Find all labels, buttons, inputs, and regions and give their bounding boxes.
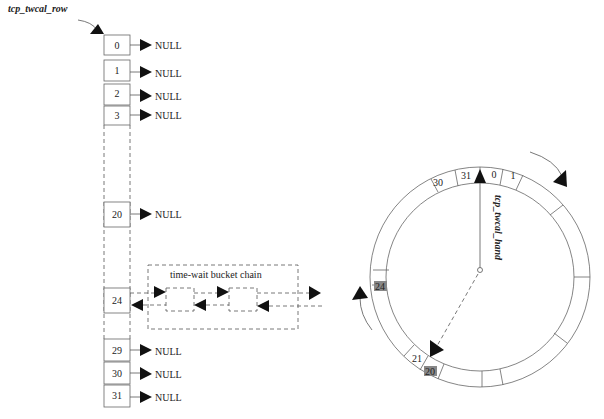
arrow-right-icon: [140, 66, 152, 78]
ring-slot-label: 1: [511, 170, 516, 181]
hand-pointer-label: tcp_twcal_hand: [493, 195, 504, 261]
rotation-arrow-icon: [352, 286, 368, 300]
row-slot: 29 NULL: [104, 339, 182, 361]
hand-pointer-arrow-icon: [474, 169, 486, 183]
hand-arrow-icon: [430, 340, 444, 357]
svg-text:2: 2: [115, 88, 120, 99]
hand-pivot: [478, 268, 483, 273]
row-slot: 0 NULL: [104, 35, 182, 55]
svg-text:29: 29: [112, 345, 122, 356]
svg-text:NULL: NULL: [155, 209, 182, 220]
row-slot: 3 NULL: [104, 106, 182, 125]
svg-text:NULL: NULL: [155, 68, 182, 79]
ring-slot-label: 30: [433, 177, 443, 188]
ring-slot-label: 0: [492, 169, 497, 180]
arrow-right-icon: [140, 344, 152, 356]
row-slot: 2 NULL: [104, 84, 182, 105]
null-label: NULL: [155, 40, 182, 51]
svg-text:24: 24: [112, 295, 122, 306]
arrow-right-icon: [154, 286, 166, 298]
ring-slot-label: 21: [412, 353, 422, 364]
arrow-left-icon: [131, 299, 143, 311]
timewait-calendar-diagram: tcp_twcal_row 0 NULL 1 NULL 2 NULL 3 NUL…: [0, 0, 604, 419]
svg-text:30: 30: [112, 368, 122, 379]
svg-text:NULL: NULL: [155, 91, 182, 102]
ring-slot-label: 31: [461, 170, 471, 181]
chain-title: time-wait bucket chain: [170, 269, 262, 280]
arrow-left-icon: [257, 300, 269, 312]
bucket-node: [229, 288, 257, 311]
arrow-right-icon: [217, 286, 229, 298]
arrow-right-icon: [140, 39, 152, 51]
ring-slot-label: 20: [425, 366, 435, 377]
svg-text:NULL: NULL: [155, 369, 182, 380]
arrow-right-icon: [140, 208, 152, 220]
svg-text:3: 3: [115, 110, 120, 121]
slot-index: 0: [115, 40, 120, 51]
row-slot: 1 NULL: [104, 60, 182, 81]
rotation-arc-left: [360, 298, 372, 330]
row-slot: 20 NULL: [104, 202, 182, 227]
svg-text:NULL: NULL: [155, 110, 182, 121]
svg-text:20: 20: [112, 209, 122, 220]
arrow-right-icon: [140, 109, 152, 121]
row-slot: 31 NULL: [104, 385, 182, 407]
ring-slot-label: 24: [375, 281, 385, 292]
hand-dashed-line: [437, 274, 478, 346]
svg-text:31: 31: [112, 390, 122, 401]
bucket-node: [166, 288, 194, 311]
arrow-right-icon: [309, 286, 321, 300]
timewait-bucket-chain: time-wait bucket chain: [130, 265, 322, 329]
arrow-left-icon: [194, 299, 206, 311]
row-slot: 30 NULL: [104, 362, 182, 384]
arrow-right-icon: [140, 89, 152, 102]
arrow-right-icon: [140, 367, 152, 380]
svg-text:1: 1: [115, 65, 120, 76]
svg-text:NULL: NULL: [155, 346, 182, 357]
row-pointer-arrow-icon: [90, 24, 104, 34]
row-pointer-curve: [78, 20, 97, 30]
row-pointer-label: tcp_twcal_row: [8, 3, 68, 14]
svg-text:NULL: NULL: [155, 392, 182, 403]
arrow-right-icon: [140, 391, 152, 403]
row-slot-chain-head: 24: [104, 288, 130, 313]
rotation-arc-top: [530, 152, 562, 176]
